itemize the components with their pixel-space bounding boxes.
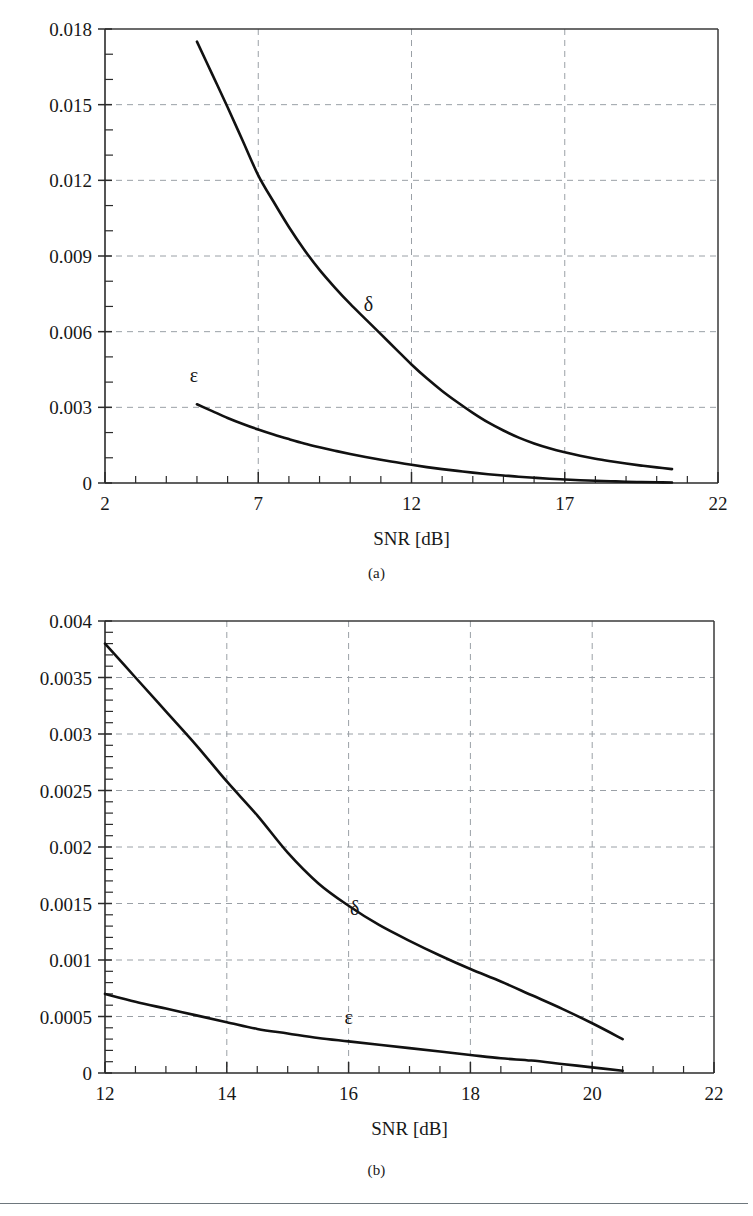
x-tick-label: 2 (100, 493, 110, 514)
y-tick-label: 0.003 (49, 724, 92, 745)
data-curve-δ (105, 644, 623, 1040)
curve-label-δ: δ (350, 897, 359, 919)
tick-labels-group: 12141618202200.00050.0010.00150.0020.002… (40, 611, 724, 1139)
gridlines-group (105, 29, 718, 483)
figure-panel-b: 12141618202200.00050.0010.00150.0020.002… (0, 600, 753, 1160)
tick-labels-group: 2712172200.0030.0060.0090.0120.0150.018S… (49, 19, 727, 549)
gridlines-group (105, 621, 714, 1073)
x-tick-label: 22 (709, 493, 728, 514)
y-tick-label: 0.0035 (40, 668, 92, 689)
subcaption-a: (a) (0, 565, 753, 582)
y-tick-label: 0.009 (49, 246, 92, 267)
data-curve-ε (105, 994, 623, 1071)
y-tick-label: 0 (83, 1063, 93, 1084)
x-tick-label: 7 (254, 493, 264, 514)
curve-label-ε: ε (344, 1006, 352, 1028)
y-tick-label: 0.0015 (40, 894, 92, 915)
x-tick-label: 14 (217, 1083, 237, 1104)
x-tick-label: 12 (96, 1083, 115, 1104)
curve-label-δ: δ (364, 293, 373, 315)
x-tick-label: 22 (705, 1083, 724, 1104)
footer-rule (0, 1203, 748, 1204)
x-tick-label: 16 (339, 1083, 358, 1104)
y-tick-label: 0.018 (49, 19, 92, 40)
y-tick-label: 0.0005 (40, 1007, 92, 1028)
curve-label-ε: ε (190, 364, 198, 386)
x-tick-label: 20 (583, 1083, 602, 1104)
y-tick-label: 0.004 (49, 611, 92, 632)
curves-group: δε (105, 644, 623, 1071)
figure-panel-a: 2712172200.0030.0060.0090.0120.0150.018S… (0, 0, 753, 600)
x-tick-label: 17 (555, 493, 574, 514)
x-tick-label: 12 (402, 493, 421, 514)
chart-a: 2712172200.0030.0060.0090.0120.0150.018S… (0, 0, 753, 560)
x-axis-title: SNR [dB] (371, 1118, 448, 1139)
figure-page: 2712172200.0030.0060.0090.0120.0150.018S… (0, 0, 753, 1216)
y-tick-label: 0 (83, 473, 93, 494)
x-axis-title: SNR [dB] (373, 528, 450, 549)
curves-group: δε (190, 42, 672, 483)
y-tick-label: 0.003 (49, 397, 92, 418)
chart-b: 12141618202200.00050.0010.00150.0020.002… (0, 600, 753, 1160)
y-tick-label: 0.006 (49, 322, 92, 343)
data-curve-ε (197, 404, 672, 482)
y-tick-label: 0.015 (49, 95, 92, 116)
subcaption-b: (b) (0, 1162, 753, 1179)
y-tick-label: 0.012 (49, 170, 92, 191)
x-tick-label: 18 (461, 1083, 480, 1104)
y-tick-label: 0.002 (49, 837, 92, 858)
y-tick-label: 0.0025 (40, 781, 92, 802)
data-curve-δ (197, 42, 672, 470)
y-tick-label: 0.001 (49, 950, 92, 971)
